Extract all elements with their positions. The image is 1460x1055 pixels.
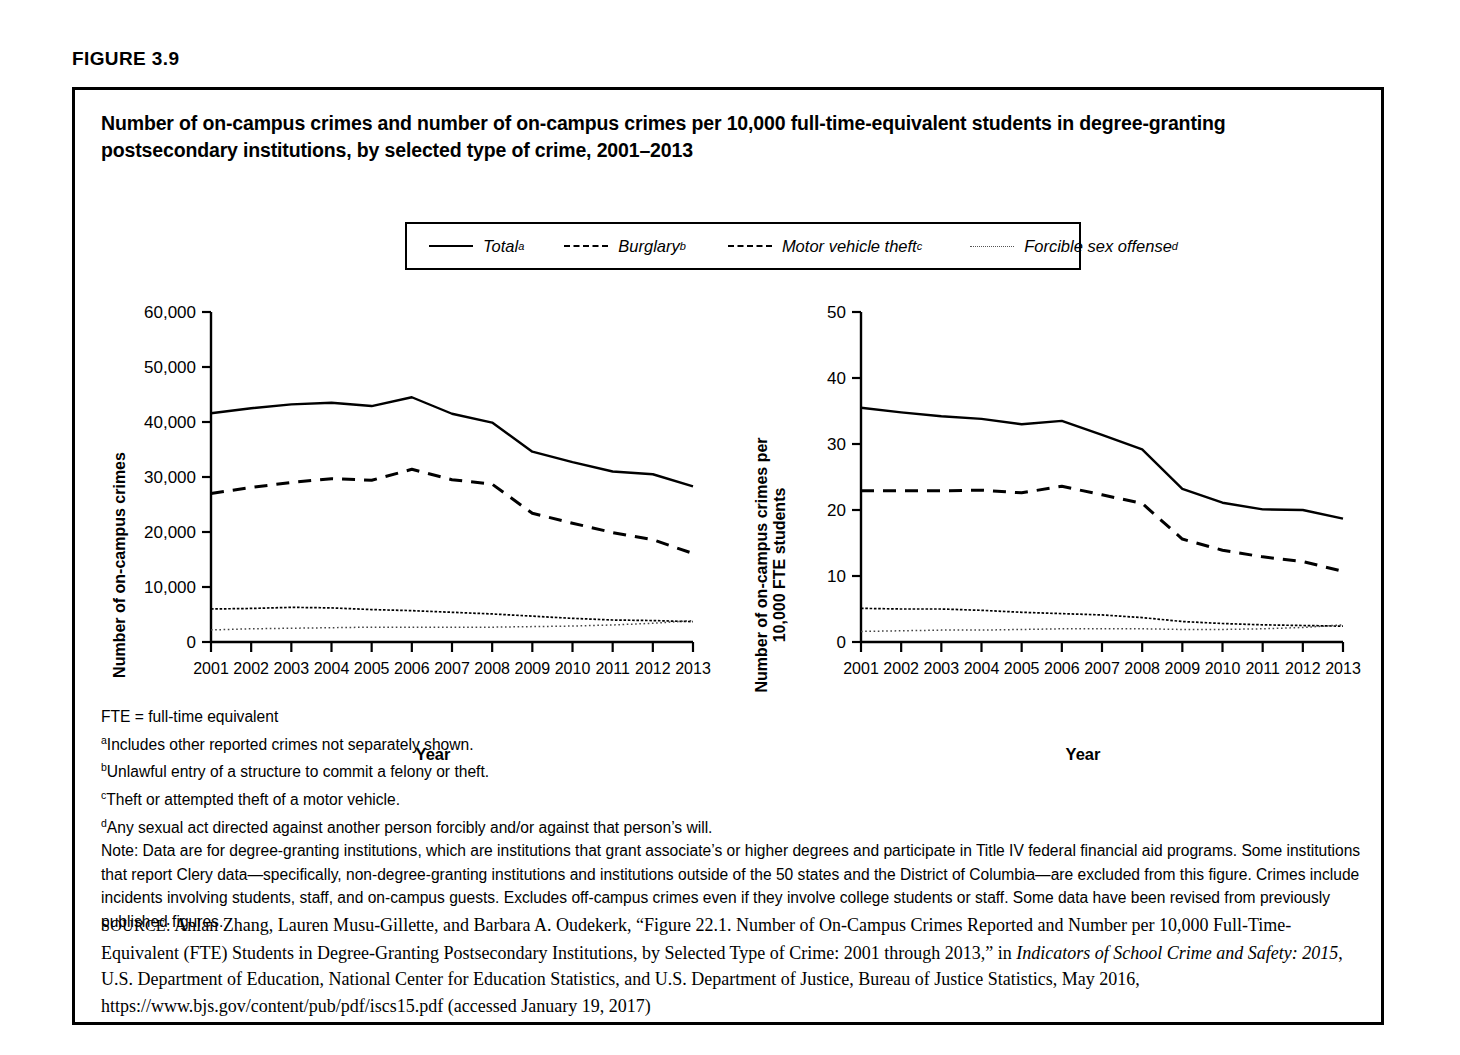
note-d-text: Any sexual act directed against another … [107, 819, 713, 836]
series-line-burglary [211, 469, 693, 553]
note-b-text: Unlawful entry of a structure to commit … [107, 763, 489, 780]
figure-page: FIGURE 3.9 Number of on-campus crimes an… [0, 0, 1460, 1055]
dotted-line-icon [970, 246, 1014, 247]
note-fte: FTE = full-time equivalent [101, 705, 1363, 729]
svg-text:2002: 2002 [883, 660, 919, 677]
legend-item-total[interactable]: Totala [429, 237, 524, 256]
legend-sup-b: b [680, 240, 686, 252]
svg-text:2006: 2006 [1044, 660, 1080, 677]
legend-sup-c: c [917, 240, 923, 252]
legend-label-forcible-sex-offense: Forcible sex offense [1024, 237, 1172, 256]
figure-notes: FTE = full-time equivalent aIncludes oth… [101, 705, 1363, 933]
svg-text:2008: 2008 [474, 660, 510, 677]
svg-text:2013: 2013 [1325, 660, 1361, 677]
series-line-total [211, 397, 693, 486]
svg-text:2012: 2012 [635, 660, 671, 677]
legend-label-total: Total [483, 237, 518, 256]
svg-text:2007: 2007 [434, 660, 470, 677]
svg-text:50,000: 50,000 [144, 358, 196, 377]
svg-text:40: 40 [827, 369, 846, 388]
series-line-total [861, 408, 1343, 519]
svg-text:2008: 2008 [1124, 660, 1160, 677]
svg-text:40,000: 40,000 [144, 413, 196, 432]
note-a-text: Includes other reported crimes not separ… [107, 736, 474, 753]
svg-text:0: 0 [837, 633, 846, 652]
legend-sup-d: d [1172, 240, 1178, 252]
svg-text:2002: 2002 [233, 660, 269, 677]
series-line-forcible-sex-offense [861, 625, 1343, 632]
svg-text:2003: 2003 [274, 660, 310, 677]
svg-text:2013: 2013 [675, 660, 711, 677]
svg-text:50: 50 [827, 303, 846, 322]
source-label: SOURCE: [101, 917, 171, 934]
svg-text:2009: 2009 [515, 660, 551, 677]
svg-text:2010: 2010 [555, 660, 591, 677]
dashed-line-icon [564, 245, 608, 247]
svg-text:30,000: 30,000 [144, 468, 196, 487]
svg-text:2001: 2001 [193, 660, 229, 677]
note-a: aIncludes other reported crimes not sepa… [101, 729, 1363, 757]
note-b: bUnlawful entry of a structure to commit… [101, 756, 1363, 784]
legend-item-forcible-sex-offense[interactable]: Forcible sex offensed [970, 237, 1178, 256]
legend-item-motor-vehicle-theft[interactable]: Motor vehicle theftc [728, 237, 922, 256]
svg-text:20: 20 [827, 501, 846, 520]
svg-text:10,000: 10,000 [144, 578, 196, 597]
svg-text:2003: 2003 [924, 660, 960, 677]
svg-text:2010: 2010 [1205, 660, 1241, 677]
svg-text:2007: 2007 [1084, 660, 1120, 677]
series-line-burglary [861, 486, 1343, 571]
svg-text:10: 10 [827, 567, 846, 586]
note-c-text: Theft or attempted theft of a motor vehi… [106, 791, 400, 808]
svg-text:2009: 2009 [1165, 660, 1201, 677]
svg-text:30: 30 [827, 435, 846, 454]
note-c: cTheft or attempted theft of a motor veh… [101, 784, 1363, 812]
series-line-motor-vehicle-theft [211, 607, 693, 621]
svg-text:2004: 2004 [964, 660, 1000, 677]
solid-line-icon [429, 245, 473, 247]
svg-text:2011: 2011 [1245, 660, 1280, 677]
svg-text:60,000: 60,000 [144, 303, 196, 322]
svg-text:20,000: 20,000 [144, 523, 196, 542]
figure-label: FIGURE 3.9 [72, 48, 179, 70]
line-chart-right: 0102030405020012002200320042005200620072… [743, 290, 1363, 760]
legend-sup-a: a [518, 240, 524, 252]
figure-source: SOURCE: Anlan Zhang, Lauren Musu-Gillett… [101, 912, 1359, 1019]
svg-text:2001: 2001 [843, 660, 879, 677]
chart-legend: Totala Burglaryb Motor vehicle theftc Fo… [405, 222, 1081, 270]
svg-text:2011: 2011 [595, 660, 630, 677]
legend-item-burglary[interactable]: Burglaryb [564, 237, 686, 256]
legend-label-burglary: Burglary [618, 237, 679, 256]
source-italic1: Indicators of School Crime and Safety: 2… [1016, 943, 1338, 963]
series-line-forcible-sex-offense [211, 621, 693, 630]
series-line-motor-vehicle-theft [861, 608, 1343, 626]
svg-text:2006: 2006 [394, 660, 430, 677]
svg-text:2005: 2005 [1004, 660, 1040, 677]
line-chart-left: 010,00020,00030,00040,00050,00060,000200… [93, 290, 713, 760]
svg-text:2005: 2005 [354, 660, 390, 677]
svg-text:2004: 2004 [314, 660, 350, 677]
dashdot-line-icon [728, 245, 772, 247]
figure-title: Number of on-campus crimes and number of… [101, 110, 1341, 164]
note-d: dAny sexual act directed against another… [101, 812, 1363, 840]
svg-text:0: 0 [187, 633, 196, 652]
figure-frame: Number of on-campus crimes and number of… [72, 87, 1384, 1025]
legend-label-motor-vehicle-theft: Motor vehicle theft [782, 237, 917, 256]
svg-text:2012: 2012 [1285, 660, 1321, 677]
